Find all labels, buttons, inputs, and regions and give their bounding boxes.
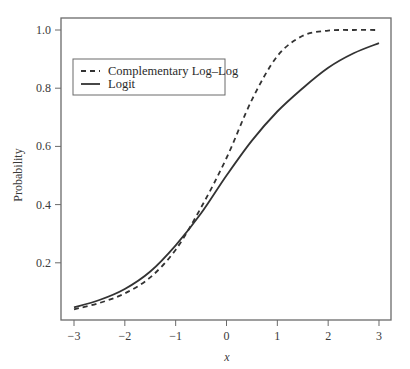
legend-label-logit: Logit bbox=[108, 77, 136, 91]
x-axis-title: x bbox=[223, 350, 230, 364]
x-tick-label: 3 bbox=[376, 329, 382, 343]
x-tick-label: −1 bbox=[169, 329, 182, 343]
x-tick-label: 2 bbox=[325, 329, 331, 343]
x-axis: −3−2−10123 bbox=[68, 320, 382, 343]
x-tick-label: −3 bbox=[68, 329, 81, 343]
x-tick-label: 0 bbox=[224, 329, 230, 343]
legend: Complementary Log–Log Logit bbox=[73, 59, 239, 95]
chart: −3−2−10123 0.20.40.60.81.0 x Probability… bbox=[0, 0, 410, 369]
y-axis: 0.20.40.60.81.0 bbox=[36, 23, 61, 270]
x-tick-label: −2 bbox=[118, 329, 131, 343]
legend-label-cloglog: Complementary Log–Log bbox=[108, 64, 239, 78]
y-tick-label: 0.8 bbox=[36, 81, 51, 95]
y-tick-label: 0.4 bbox=[36, 198, 51, 212]
y-axis-title: Probability bbox=[11, 148, 25, 201]
y-tick-label: 1.0 bbox=[36, 23, 51, 37]
y-tick-label: 0.2 bbox=[36, 256, 51, 270]
y-tick-label: 0.6 bbox=[36, 139, 51, 153]
x-tick-label: 1 bbox=[274, 329, 280, 343]
